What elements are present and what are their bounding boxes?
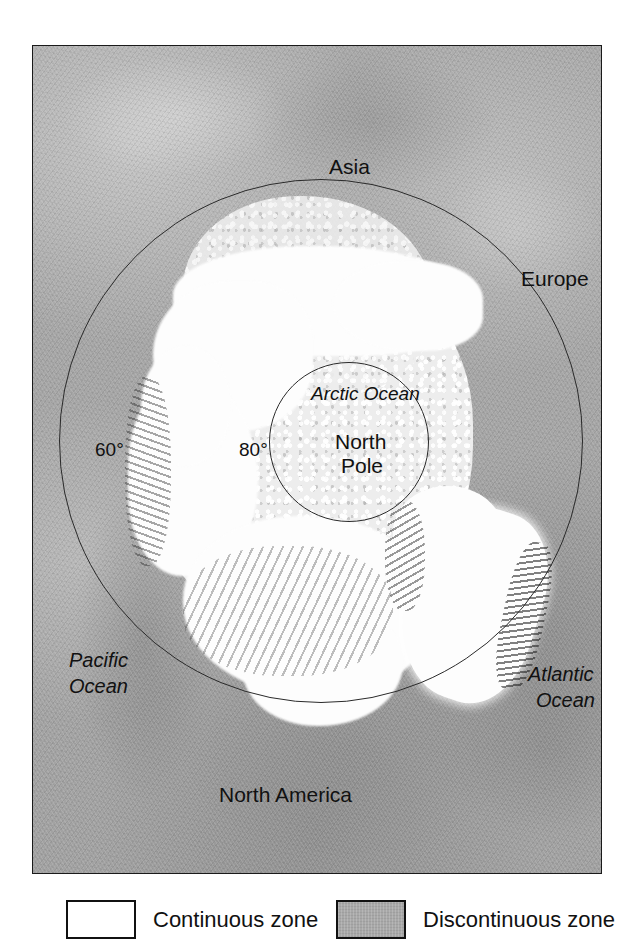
map-label-asia: Asia [329,156,370,178]
map-label-pacific-ocean-line2: Ocean [69,676,128,697]
figure-page: Asia Europe North America Pacific Ocean … [0,0,638,944]
map-legend: Continuous zone Discontinuous zone [0,895,638,944]
map-label-latitude-80: 80° [239,440,268,460]
map-label-north-pole-line2: Pole [341,455,383,477]
map-label-latitude-60: 60° [95,440,124,460]
legend-swatch-continuous [66,900,136,939]
legend-item-discontinuous: Discontinuous zone [336,900,615,939]
arctic-permafrost-map: Asia Europe North America Pacific Ocean … [32,45,602,874]
map-label-north-pole-line1: North [335,431,386,453]
map-label-atlantic-ocean-line1: Atlantic [528,664,594,685]
map-label-pacific-ocean-line1: Pacific [69,650,128,671]
legend-item-continuous: Continuous zone [66,900,318,939]
legend-label-discontinuous: Discontinuous zone [423,907,615,933]
legend-swatch-discontinuous [336,900,406,939]
legend-label-continuous: Continuous zone [153,907,318,933]
map-label-north-america: North America [219,784,352,806]
map-label-atlantic-ocean-line2: Ocean [536,690,595,711]
map-label-arctic-ocean: Arctic Ocean [311,384,420,404]
map-label-europe: Europe [521,268,589,290]
